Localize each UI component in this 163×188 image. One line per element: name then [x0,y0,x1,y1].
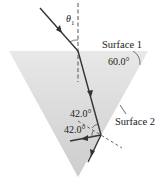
apex-angle-label: 60.0° [108,57,130,67]
surface1-label: Surface 1 [102,40,142,51]
theta1-arc [70,40,78,42]
surface2-label: Surface 2 [115,117,155,128]
incident-angle-label: 42.0° [70,109,92,119]
reflected-angle-label: 42.0° [64,125,86,135]
prism-refraction-diagram [0,0,163,188]
surface2-pointer [120,105,126,114]
theta1-label: θ1 [66,14,74,27]
